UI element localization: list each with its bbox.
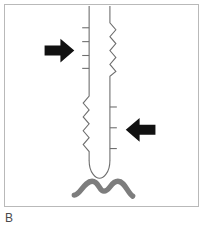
left-pointing-arrow: [126, 118, 156, 142]
panel-label: B: [5, 211, 13, 225]
lower-right-ticks: [110, 107, 117, 149]
upper-left-ticks: [82, 28, 89, 69]
tube-left-wall: [83, 6, 89, 160]
wavy-baseline: [74, 181, 132, 196]
figure-illustration: [5, 5, 198, 206]
figure-panel: [4, 4, 199, 207]
tube-group: [82, 6, 117, 178]
tube-right-wall: [110, 6, 116, 160]
figure-root: B: [0, 0, 203, 233]
right-pointing-arrow: [45, 39, 75, 63]
tube-tip: [89, 160, 110, 178]
